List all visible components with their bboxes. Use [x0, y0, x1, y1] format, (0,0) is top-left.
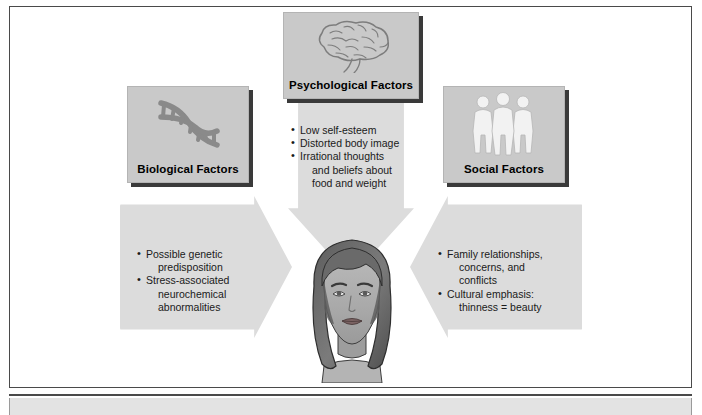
footer-divider [9, 394, 692, 396]
social-factors-label: Social Factors [444, 163, 564, 175]
list-item: Possible genetic predisposition [137, 248, 277, 274]
dna-helix-icon [128, 91, 248, 156]
social-factors-box[interactable]: Social Factors [443, 86, 565, 183]
biological-bullet-list: Possible genetic predisposition Stress-a… [137, 248, 277, 314]
footer-band [9, 398, 692, 415]
list-item: Low self-esteem [291, 124, 409, 137]
list-item: Cultural emphasis: thinness = beauty [438, 288, 588, 314]
list-item: Distorted body image [291, 137, 409, 150]
diagram-page: Biological Factors [0, 0, 702, 415]
list-item: Family relationships, concerns, and conf… [438, 248, 588, 288]
list-item: Stress-associated neurochemical abnormal… [137, 274, 277, 314]
three-people-icon [444, 91, 564, 156]
psychological-factors-label: Psychological Factors [284, 79, 418, 91]
womans-face-illustration [294, 228, 410, 383]
list-item: Irrational thoughts and beliefs about fo… [291, 150, 409, 190]
biological-factors-label: Biological Factors [128, 163, 248, 175]
social-bullet-list: Family relationships, concerns, and conf… [438, 248, 588, 314]
psychological-factors-box[interactable]: Psychological Factors [283, 12, 419, 99]
biological-factors-box[interactable]: Biological Factors [127, 86, 249, 183]
brain-icon [284, 17, 418, 72]
psychological-bullet-list: Low self-esteem Distorted body image Irr… [291, 124, 409, 190]
